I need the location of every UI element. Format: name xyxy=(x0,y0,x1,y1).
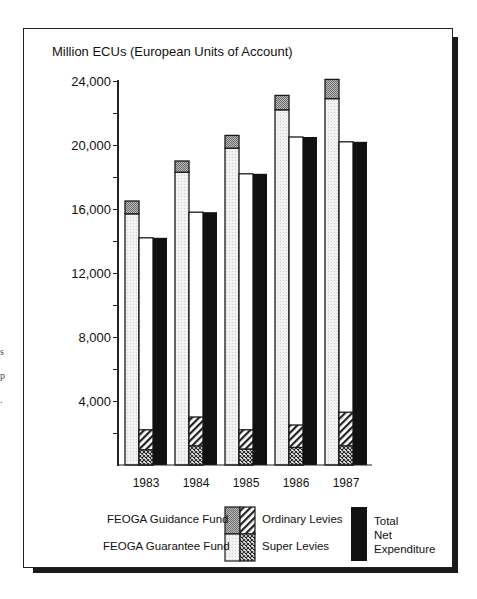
bar-feoga-guarantee xyxy=(125,214,139,465)
bar-net-expenditure xyxy=(153,238,167,465)
bar-ordinary-levies xyxy=(139,430,153,450)
legend-net-label-1: Total xyxy=(374,515,398,527)
bar-feoga-guidance xyxy=(225,135,239,148)
bar-super-levies xyxy=(239,449,253,465)
bar-feoga-guarantee xyxy=(225,148,239,465)
bar-super-levies xyxy=(189,446,203,465)
bar-feoga-guidance xyxy=(325,79,339,98)
legend-guidance-label: FEOGA Guidance Fund xyxy=(107,513,228,525)
bars-group xyxy=(117,79,372,465)
bar-super-levies xyxy=(139,450,153,465)
bar-net-expenditure xyxy=(253,174,267,465)
bar-feoga-guarantee xyxy=(325,99,339,465)
bar-ordinary-levies xyxy=(189,417,203,446)
bar-net-expenditure xyxy=(353,142,367,465)
legend-ordinary-label: Ordinary Levies xyxy=(262,513,343,525)
bar-net-expenditure xyxy=(303,137,317,465)
legend-swatch-net-expenditure xyxy=(351,507,367,561)
bar-feoga-guidance xyxy=(125,201,139,214)
bar-feoga-guarantee xyxy=(275,110,289,465)
legend-net-label-2: Net xyxy=(374,529,392,541)
bar-feoga-guidance xyxy=(275,95,289,109)
bar-levies-outline xyxy=(289,137,303,465)
legend-swatch-super xyxy=(240,534,255,561)
legend-swatch-ordinary xyxy=(240,507,255,534)
bar-ordinary-levies xyxy=(289,425,303,447)
bar-feoga-guarantee xyxy=(175,172,189,465)
bar-levies-outline xyxy=(239,174,253,465)
legend-net-label-3: Expenditure xyxy=(374,543,435,555)
bar-ordinary-levies xyxy=(239,430,253,449)
legend-super-label: Super Levies xyxy=(262,540,329,552)
bar-super-levies xyxy=(289,447,303,465)
legend-guarantee-label: FEOGA Guarantee Fund xyxy=(103,540,230,552)
plot-area xyxy=(0,0,477,599)
bar-super-levies xyxy=(339,446,353,465)
bar-net-expenditure xyxy=(203,212,217,465)
bar-ordinary-levies xyxy=(339,412,353,446)
bar-feoga-guidance xyxy=(175,161,189,172)
